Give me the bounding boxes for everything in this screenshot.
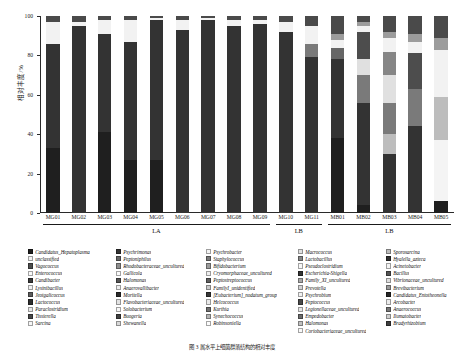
list-item[interactable]: Cryomorphaceae_uncultured xyxy=(206,270,298,277)
list-item[interactable]: Kurthia xyxy=(206,306,298,313)
table-row[interactable] xyxy=(279,16,292,213)
legend-swatch xyxy=(28,285,33,290)
legend-swatch xyxy=(28,299,33,304)
table-row[interactable] xyxy=(124,16,137,213)
bar-segment xyxy=(383,52,396,76)
list-item[interactable]: Arcobacter xyxy=(386,298,460,305)
list-item[interactable]: Sporosarcina xyxy=(386,248,460,255)
list-item[interactable]: Vagococcus xyxy=(28,262,116,269)
table-row[interactable] xyxy=(305,16,318,213)
list-item[interactable]: Bradyrhizobium xyxy=(386,320,460,327)
list-item[interactable]: Bifidobacterium xyxy=(206,262,298,269)
bar-segment xyxy=(150,20,163,160)
bar-segment xyxy=(331,48,344,60)
list-item[interactable]: unclassified xyxy=(28,255,116,262)
list-item[interactable]: Synechococcus xyxy=(206,313,298,320)
group-bracket xyxy=(43,224,270,225)
list-item[interactable]: Moritella xyxy=(116,291,206,298)
list-item[interactable]: Psychrobium xyxy=(298,291,386,298)
table-row[interactable] xyxy=(72,16,85,213)
table-row[interactable] xyxy=(201,16,214,213)
table-row[interactable] xyxy=(434,16,447,213)
legend-label: Solobacterium xyxy=(123,306,152,312)
list-item[interactable]: Jeotgalicoccus xyxy=(28,291,116,298)
list-item[interactable]: Pseudoclostridium xyxy=(298,262,386,269)
list-item[interactable]: Psychrobacter xyxy=(206,248,298,255)
list-item[interactable]: Candidatus_Hepatoplasma xyxy=(28,248,116,255)
list-item[interactable]: Buogeria xyxy=(116,313,206,320)
list-item[interactable]: Gallicola xyxy=(116,270,206,277)
list-item[interactable]: Vibrionaceae_uncultured xyxy=(386,277,460,284)
list-item[interactable]: Candibacter xyxy=(28,277,116,284)
list-item[interactable]: Brevibacterium xyxy=(386,284,460,291)
list-item[interactable]: Helcococcus xyxy=(206,298,298,305)
legend-swatch xyxy=(28,314,33,319)
table-row[interactable] xyxy=(383,16,396,213)
list-item[interactable]: Flavobacteriaceae_uncultured xyxy=(116,298,206,305)
list-item[interactable]: Escherichia-Shigella xyxy=(298,270,386,277)
group-label: LA xyxy=(152,227,161,234)
legend-label: Rhodobacteraceae_uncultured xyxy=(123,263,184,269)
legend-label: Pseudoclostridium xyxy=(305,263,342,269)
list-item[interactable]: Family_XI_uncultured xyxy=(298,277,386,284)
list-item[interactable]: Lysinibacillus xyxy=(28,284,116,291)
table-row[interactable] xyxy=(408,16,421,213)
list-item[interactable]: Peptoniphilus xyxy=(116,255,206,262)
table-row[interactable] xyxy=(227,16,240,213)
table-row[interactable] xyxy=(176,16,189,213)
list-item[interactable]: Peptostreptococcus xyxy=(206,277,298,284)
bar-segment xyxy=(46,44,59,148)
list-item[interactable]: Hyalella_azteca xyxy=(386,255,460,262)
x-tick-label: MG07 xyxy=(201,214,216,220)
list-item[interactable]: Ilumatobacter xyxy=(386,313,460,320)
list-item[interactable]: Halomonas xyxy=(298,320,386,327)
list-item[interactable]: Tissierella xyxy=(28,313,116,320)
list-item[interactable]: Staphylococcus xyxy=(206,255,298,262)
list-item[interactable]: Paraclostridium xyxy=(28,306,116,313)
bar-segment xyxy=(434,201,447,213)
legend-label: Acinetobacter xyxy=(393,263,421,269)
table-row[interactable] xyxy=(150,16,163,213)
list-item[interactable]: Psychrimonas xyxy=(116,248,206,255)
legend-label: Psychrobium xyxy=(305,292,331,298)
bar-segment xyxy=(434,140,447,201)
list-item[interactable]: Robinsoniella xyxy=(206,320,298,327)
list-item[interactable]: Halomonas xyxy=(116,277,206,284)
table-row[interactable] xyxy=(46,16,59,213)
list-item[interactable]: Lactobacillus xyxy=(298,255,386,262)
table-row[interactable] xyxy=(357,16,370,213)
bar-segment xyxy=(357,75,370,103)
list-item[interactable]: Peptococcus xyxy=(298,298,386,305)
y-tick-label: 40 xyxy=(27,131,33,137)
bar-segment xyxy=(383,103,396,135)
list-item[interactable]: Macrococcus xyxy=(298,248,386,255)
legend-swatch xyxy=(206,249,211,254)
list-item[interactable]: Sarcina xyxy=(28,320,116,327)
list-item[interactable]: Shewanella xyxy=(116,320,206,327)
list-item[interactable]: Acinetobacter xyxy=(386,262,460,269)
bar-segment xyxy=(357,59,370,75)
plot-area: 相对丰度/% 020406080100 MG01MG02MG03MG04MG05… xyxy=(0,0,464,248)
list-item[interactable]: Legionellaceae_uncultured xyxy=(298,306,386,313)
table-row[interactable] xyxy=(253,16,266,213)
list-item[interactable]: Empedobacter xyxy=(298,313,386,320)
list-item[interactable]: Prevotella xyxy=(298,284,386,291)
list-item[interactable]: Anaerococcus xyxy=(386,306,460,313)
list-item[interactable]: [Eubacterium]_nodatum_group xyxy=(206,291,298,298)
list-item[interactable]: Rhodobacteraceae_uncultured xyxy=(116,262,206,269)
list-item[interactable]: Lactococcus xyxy=(28,298,116,305)
bar-segment xyxy=(408,89,421,126)
table-row[interactable] xyxy=(331,16,344,213)
table-row[interactable] xyxy=(98,16,111,213)
bar-segment xyxy=(357,32,370,60)
list-item[interactable]: FamilyI_unidentified xyxy=(206,284,298,291)
list-item[interactable]: Candidatus_Entotheonella xyxy=(386,291,460,298)
list-item[interactable]: Coriobacteriaceae_uncultured xyxy=(298,327,386,334)
list-item[interactable]: Enterococcus xyxy=(28,270,116,277)
list-item[interactable]: Bacillus xyxy=(386,270,460,277)
legend-swatch xyxy=(206,278,211,283)
list-item[interactable]: Solobacterium xyxy=(116,306,206,313)
list-item[interactable]: Anaerovallibacter xyxy=(116,284,206,291)
legend-swatch xyxy=(298,307,303,312)
legend-swatch xyxy=(386,271,391,276)
